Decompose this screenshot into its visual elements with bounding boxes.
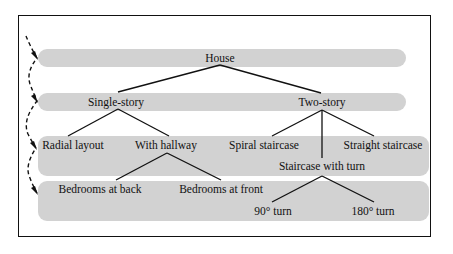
arrowhead-icon: [31, 94, 38, 103]
node-house: House: [205, 52, 234, 64]
edge-single-hallway: [118, 109, 169, 136]
edge-house-two: [220, 65, 321, 93]
node-two-story: Two-story: [298, 96, 345, 108]
node-staircase-with-turn: Staircase with turn: [279, 160, 365, 172]
node-bedrooms-at-back: Bedrooms at back: [58, 183, 141, 195]
arrowhead-icon: [31, 51, 38, 60]
edge-hallway-back: [116, 153, 167, 180]
arrowhead-icon: [31, 186, 38, 195]
edge-two-straight: [322, 110, 374, 136]
arrowheads: [30, 51, 38, 195]
edge-hallway-front: [167, 153, 221, 180]
node-180-turn: 180° turn: [351, 205, 394, 217]
edge-house-single: [118, 65, 220, 92]
node-straight-staircase: Straight staircase: [344, 139, 423, 151]
edge-two-spiral: [272, 110, 322, 136]
node-with-hallway: With hallway: [135, 139, 197, 151]
edge-turn-180: [322, 176, 374, 202]
edge-turn-90: [272, 176, 322, 202]
dashed-flow-arrow: [26, 36, 37, 193]
node-radial-layout: Radial layout: [42, 139, 104, 151]
edge-single-radial: [68, 109, 118, 136]
node-single-story: Single-story: [88, 96, 144, 108]
node-spiral-staircase: Spiral staircase: [229, 139, 299, 151]
arrowhead-icon: [30, 141, 37, 150]
node-bedrooms-at-front: Bedrooms at front: [179, 183, 263, 195]
node-90-turn: 90° turn: [254, 205, 292, 217]
